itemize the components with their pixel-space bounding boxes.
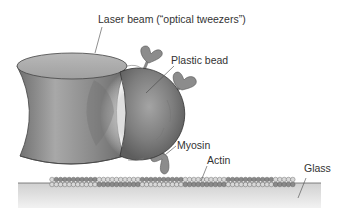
diagram-graphic <box>0 0 347 216</box>
label-actin: Actin <box>207 155 230 166</box>
label-myosin: Myosin <box>177 140 210 151</box>
label-glass: Glass <box>304 163 331 174</box>
label-laser-beam: Laser beam (“optical tweezers”) <box>98 14 246 25</box>
actin-filament <box>50 177 295 187</box>
label-plastic-bead: Plastic bead <box>171 55 228 66</box>
optical-tweezers-diagram: Laser beam (“optical tweezers”) Plastic … <box>0 0 347 216</box>
